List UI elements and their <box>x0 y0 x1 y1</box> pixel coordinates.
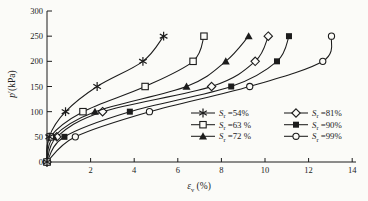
y-tick-label: 300 <box>30 6 43 16</box>
x-tick-label: 4 <box>132 165 137 175</box>
chart-canvas: 2468101214050100150200250300εv (%)p′(kPa… <box>0 0 368 201</box>
y-axis-label: p′(kPa) <box>7 70 18 98</box>
y-tick-label: 100 <box>30 107 43 117</box>
y-tick-label: 200 <box>30 56 43 66</box>
y-tick-label: 250 <box>30 31 43 41</box>
x-tick-label: 6 <box>176 165 180 175</box>
y-tick-label: 150 <box>30 82 43 92</box>
axes: 2468101214050100150200250300 <box>30 6 357 175</box>
x-tick-label: 8 <box>219 165 223 175</box>
y-tick-label: 50 <box>35 132 44 142</box>
x-tick-label: 10 <box>261 165 270 175</box>
x-tick-label: 2 <box>88 165 92 175</box>
legend: Sr =54%Sr =63 %Sr =72 %Sr =81%Sr =90%Sr … <box>186 105 362 146</box>
series-sr81 <box>43 32 273 166</box>
pressure-strain-figure: 2468101214050100150200250300εv (%)p′(kPa… <box>0 0 368 201</box>
x-tick-label: 14 <box>348 165 357 175</box>
x-axis-label: εv (%) <box>187 181 211 193</box>
x-tick-label: 12 <box>304 165 313 175</box>
